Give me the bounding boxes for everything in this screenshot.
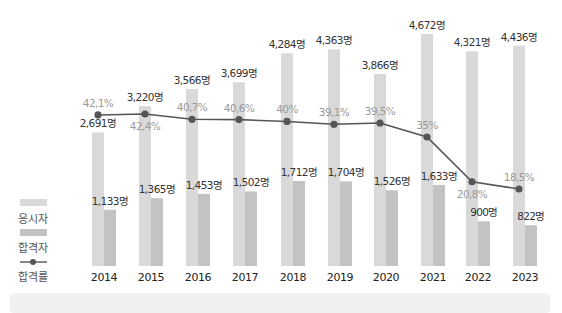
label-pass-rate-2022: 20,8% xyxy=(457,188,488,200)
label-passers-2014: 1,133명 xyxy=(92,195,128,207)
pass-rate-dot-2015 xyxy=(141,110,148,117)
label-applicants-2014: 2,691명 xyxy=(80,117,116,129)
label-pass-rate-2015: 42,4% xyxy=(130,120,161,132)
legend-swatch-passers xyxy=(20,229,47,236)
label-applicants-2021: 4,672명 xyxy=(409,19,445,31)
label-passers-2019: 1,704명 xyxy=(328,166,364,178)
pass-rate-dot-2023 xyxy=(515,185,522,192)
pass-rate-dot-2017 xyxy=(235,116,242,123)
label-pass-rate-2020: 39,5% xyxy=(365,105,396,117)
legend: 응시자 합격자 합격률 xyxy=(18,199,48,284)
label-applicants-2018: 4,284명 xyxy=(269,38,305,50)
x-tick-2018: 2018 xyxy=(280,271,307,284)
label-passers-2018: 1,712명 xyxy=(281,166,317,178)
label-applicants-2019: 4,363명 xyxy=(316,34,352,46)
label-applicants-2015: 3,220명 xyxy=(127,91,163,103)
bar-passers-2017 xyxy=(245,191,257,266)
label-passers-2023: 822명 xyxy=(517,210,545,222)
x-tick-2023: 2023 xyxy=(512,271,539,284)
label-passers-2016: 1,453명 xyxy=(186,179,222,191)
bar-applicants-2023 xyxy=(513,46,525,266)
bar-passers-2021 xyxy=(433,185,445,266)
label-pass-rate-2019: 39,1% xyxy=(319,106,350,118)
label-pass-rate-2017: 40,6% xyxy=(224,102,255,114)
bar-passers-2018 xyxy=(293,181,305,266)
x-tick-2020: 2020 xyxy=(373,271,400,284)
bar-passers-2016 xyxy=(198,194,210,266)
legend-label-applicants: 응시자 xyxy=(18,213,48,226)
label-pass-rate-2021: 35% xyxy=(416,119,438,131)
x-tick-2014: 2014 xyxy=(91,271,118,284)
label-passers-2020: 1,526명 xyxy=(374,175,410,187)
bar-applicants-2019 xyxy=(328,49,340,266)
label-pass-rate-2016: 40,7% xyxy=(177,101,208,113)
x-tick-2019: 2019 xyxy=(327,271,354,284)
bar-applicants-2020 xyxy=(374,74,386,266)
bar-passers-2019 xyxy=(340,181,352,266)
bars-group xyxy=(92,34,537,266)
label-applicants-2016: 3,566명 xyxy=(174,74,210,86)
x-tick-2021: 2021 xyxy=(420,271,446,284)
pass-rate-dot-2020 xyxy=(376,119,383,126)
label-applicants-2017: 3,699명 xyxy=(221,67,257,79)
bar-applicants-2018 xyxy=(281,53,293,266)
x-tick-2022: 2022 xyxy=(465,271,491,284)
label-applicants-2020: 3,866명 xyxy=(362,59,398,71)
legend-dot-icon xyxy=(30,259,36,265)
x-tick-2015: 2015 xyxy=(138,271,165,284)
label-passers-2022: 900명 xyxy=(470,206,498,218)
pass-rate-dot-2019 xyxy=(330,121,337,128)
label-passers-2021: 1,633명 xyxy=(421,170,457,182)
legend-label-passers: 합격자 xyxy=(18,242,48,255)
bar-passers-2014 xyxy=(104,210,116,266)
bar-passers-2020 xyxy=(386,190,398,266)
label-applicants-2023: 4,436명 xyxy=(501,31,537,43)
bar-applicants-2021 xyxy=(421,34,433,266)
x-tick-2017: 2017 xyxy=(232,271,259,284)
pass-rate-dot-2018 xyxy=(283,118,290,125)
bar-passers-2022 xyxy=(478,221,490,266)
pass-rate-dot-2021 xyxy=(423,133,430,140)
label-passers-2017: 1,502명 xyxy=(233,176,269,188)
bar-applicants-2022 xyxy=(466,51,478,266)
label-pass-rate-2023: 18,5% xyxy=(504,171,535,183)
legend-label-pass-rate: 합격률 xyxy=(18,271,48,284)
x-tick-2016: 2016 xyxy=(185,271,212,284)
legend-swatch-applicants xyxy=(20,199,47,206)
bar-passers-2015 xyxy=(151,198,163,266)
label-pass-rate-2014: 42,1% xyxy=(83,97,114,109)
pass-rate-dot-2016 xyxy=(188,116,195,123)
bar-passers-2023 xyxy=(525,225,537,266)
footer-box xyxy=(10,293,550,313)
pass-rate-dot-2022 xyxy=(468,178,475,185)
bar-applicants-2016 xyxy=(186,89,198,266)
label-pass-rate-2018: 40% xyxy=(276,103,298,115)
label-applicants-2022: 4,321명 xyxy=(454,36,490,48)
label-passers-2015: 1,365명 xyxy=(139,183,175,195)
